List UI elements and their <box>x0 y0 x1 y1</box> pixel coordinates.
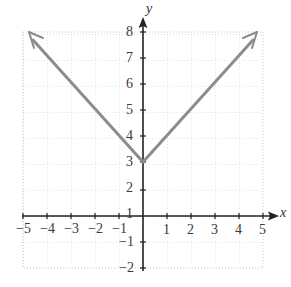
y-tick-label-4: 4 <box>126 129 133 143</box>
x-tick-label-1: 1 <box>163 223 170 237</box>
x-tick-label-neg5: −5 <box>16 222 31 236</box>
y-tick-label-6: 6 <box>126 77 133 91</box>
x-tick-label-5: 5 <box>259 223 266 237</box>
x-tick-label-neg4: −4 <box>40 222 55 236</box>
x-tick-label-3: 3 <box>211 223 218 237</box>
y-tick-label-neg1: −1 <box>119 235 134 249</box>
x-tick-label-4: 4 <box>235 223 242 237</box>
y-axis-label: y <box>146 2 152 16</box>
y-tick-label-8: 8 <box>126 25 133 39</box>
y-tick-label-5: 5 <box>126 103 133 117</box>
y-tick-label-neg2: −2 <box>119 261 134 275</box>
x-tick-label-2: 2 <box>187 223 194 237</box>
y-tick-label-2: 2 <box>126 181 133 195</box>
y-tick-label-3: 3 <box>126 155 133 169</box>
y-tick-label-1: 1 <box>126 207 133 221</box>
x-tick-label-neg2: −2 <box>88 222 103 236</box>
graph-figure: y x 8 7 6 5 4 3 2 1 −1 −2 −5 −4 −3 −2 −1… <box>0 0 291 287</box>
x-tick-label-neg3: −3 <box>64 222 79 236</box>
x-tick-label-neg1: −1 <box>112 222 127 236</box>
x-axis-label: x <box>280 206 286 220</box>
coordinate-plane-svg <box>0 0 291 287</box>
y-tick-label-7: 7 <box>126 51 133 65</box>
